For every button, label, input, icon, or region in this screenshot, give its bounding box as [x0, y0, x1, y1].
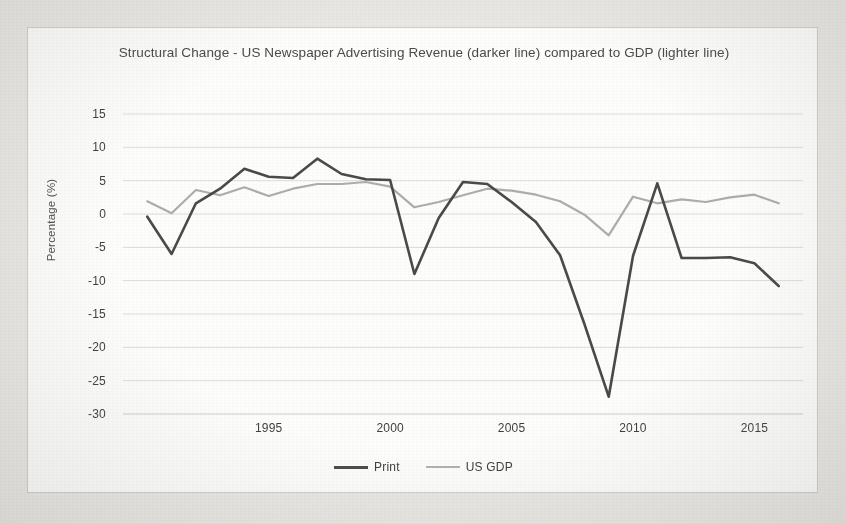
x-axis-tick-labels: 19952000200520102015 [28, 421, 819, 441]
x-tick-label: 2000 [355, 421, 425, 435]
chart-legend: PrintUS GDP [28, 460, 819, 474]
plot-area: Percentage (%) 151050-5-10-15-20-25-30 1… [28, 28, 819, 494]
legend-label: Print [374, 460, 400, 474]
series-line-us-gdp [147, 182, 778, 235]
x-tick-label: 2010 [598, 421, 668, 435]
chart-card: Structural Change - US Newspaper Adverti… [27, 27, 818, 493]
legend-label: US GDP [466, 460, 513, 474]
legend-item-us-gdp[interactable]: US GDP [426, 460, 513, 474]
legend-line-swatch [334, 466, 368, 469]
x-tick-label: 1995 [234, 421, 304, 435]
legend-line-swatch [426, 466, 460, 468]
legend-item-print[interactable]: Print [334, 460, 400, 474]
series-lines [147, 159, 778, 397]
gridlines [123, 114, 803, 414]
x-tick-label: 2015 [719, 421, 789, 435]
x-tick-label: 2005 [477, 421, 547, 435]
